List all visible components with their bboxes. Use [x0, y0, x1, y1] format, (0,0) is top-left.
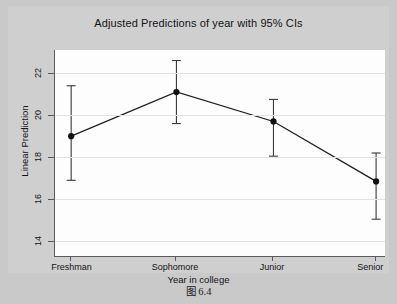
data-point-marker — [173, 89, 179, 95]
y-axis-tick-label: 22 — [30, 63, 46, 83]
x-axis-tick-mark — [272, 256, 273, 261]
figure-caption: 图 6.4 — [0, 283, 397, 298]
x-axis-tick-label: Freshman — [51, 262, 92, 272]
gridline — [55, 241, 385, 242]
screenshot-page: Adjusted Predictions of year with 95% CI… — [0, 0, 397, 304]
y-axis: 1416182022 — [8, 6, 54, 256]
prediction-line — [71, 92, 376, 181]
y-axis-tick-label: 20 — [30, 105, 46, 125]
x-axis-tick-label: Junior — [260, 262, 285, 272]
gridline — [55, 157, 385, 158]
data-point-marker — [68, 133, 74, 139]
x-axis-tick-mark — [175, 256, 176, 261]
chart-figure: Adjusted Predictions of year with 95% CI… — [8, 6, 389, 273]
y-axis-tick-label-text: 22 — [33, 68, 43, 78]
gridline — [55, 199, 385, 200]
x-axis-tick-label: Senior — [357, 262, 383, 272]
y-axis-tick-label: 18 — [30, 147, 46, 167]
data-point-marker — [373, 178, 379, 184]
chart-plot-svg — [55, 50, 385, 256]
y-axis-tick-label-text: 14 — [33, 236, 43, 246]
x-axis-tick-mark — [70, 256, 71, 261]
gridline — [55, 115, 385, 116]
plot-area — [54, 50, 385, 257]
gridline — [55, 73, 385, 74]
y-axis-tick-label-text: 18 — [33, 152, 43, 162]
y-axis-tick-label: 16 — [30, 189, 46, 209]
y-axis-tick-label-text: 16 — [33, 194, 43, 204]
x-axis-tick-mark — [375, 256, 376, 261]
data-point-marker — [270, 118, 276, 124]
x-axis-tick-label: Sophomore — [152, 262, 199, 272]
plot-inner — [55, 50, 385, 256]
chart-title: Adjusted Predictions of year with 95% CI… — [8, 17, 389, 29]
y-axis-tick-label-text: 20 — [33, 110, 43, 120]
y-axis-tick-label: 14 — [30, 231, 46, 251]
